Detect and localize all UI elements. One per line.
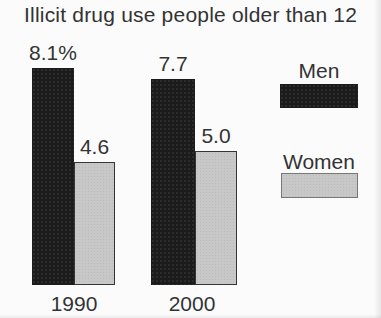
chart-title: Illicit drug use people older than 12: [24, 3, 357, 27]
legend-swatch-men: [280, 84, 358, 108]
legend-swatch-women: [281, 173, 358, 198]
value-label-men-1990: 8.1%: [13, 41, 93, 65]
value-label-women-2000: 5.0: [176, 124, 256, 148]
bar-women-2000: [195, 151, 237, 285]
bar-chart: Illicit drug use people older than 12 8.…: [0, 0, 381, 318]
category-label-2000: 2000: [152, 292, 232, 316]
bar-men-2000: [151, 79, 195, 285]
value-label-men-2000: 7.7: [133, 52, 213, 76]
bar-men-1990: [32, 68, 74, 285]
legend-label-women: Women: [280, 150, 358, 174]
legend-label-men: Men: [280, 59, 358, 83]
value-label-women-1990: 4.6: [55, 135, 135, 159]
bar-women-1990: [74, 162, 115, 285]
category-label-1990: 1990: [34, 292, 114, 316]
